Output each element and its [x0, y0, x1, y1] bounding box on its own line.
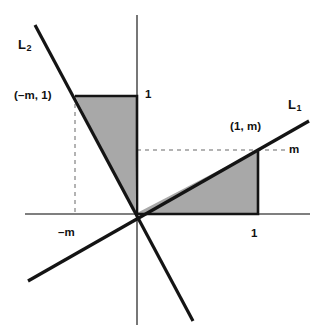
- label-point-neg-m-1: (–m, 1): [14, 90, 52, 102]
- label-tick-neg-m: –m: [58, 227, 75, 239]
- label-line-L1-subscript: 1: [297, 103, 302, 113]
- label-tick-y-one: 1: [145, 89, 152, 101]
- line-L2: [35, 25, 193, 321]
- label-line-L1-text: L: [288, 97, 296, 112]
- label-tick-x-one: 1: [251, 228, 258, 240]
- label-line-L1: L1: [288, 98, 301, 111]
- label-tick-m: m: [289, 144, 299, 156]
- figure-canvas: [0, 0, 326, 335]
- label-line-L2: L2: [18, 38, 31, 51]
- line-L1: [28, 121, 309, 281]
- geometry-figure: L2 (–m, 1) 1 L1 (1, m) m –m 1: [0, 0, 326, 335]
- label-point-1-m: (1, m): [230, 121, 261, 133]
- label-line-L2-subscript: 2: [27, 43, 32, 53]
- label-line-L2-text: L: [18, 37, 26, 52]
